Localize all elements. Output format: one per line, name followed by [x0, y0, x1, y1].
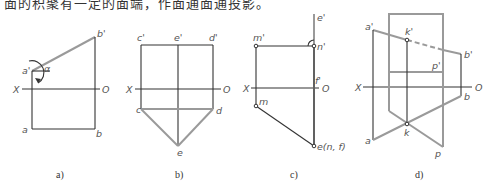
line-a-b — [373, 96, 461, 140]
point-e — [312, 144, 316, 148]
label-p: p — [434, 148, 441, 159]
point-n-prime — [312, 44, 316, 48]
label-d-prime: d' — [209, 32, 218, 43]
label-e-prime: e' — [174, 32, 182, 43]
panel-b: c' e' d' X O c d e b) — [125, 32, 231, 181]
label-o: O — [223, 84, 231, 95]
label-b: b — [96, 128, 102, 139]
label-e: e — [177, 147, 183, 158]
label-c-prime: c' — [137, 32, 145, 43]
label-o: O — [475, 82, 483, 93]
label-e-nf: e(n, f) — [317, 141, 346, 152]
label-a: a — [22, 124, 28, 135]
caption-b: b) — [175, 169, 183, 181]
label-c: c — [136, 104, 142, 115]
label-p-prime: p' — [431, 60, 441, 71]
label-m-prime: m' — [253, 32, 265, 43]
panel-c: e' m' n' f' X O m e(n, f) c) — [242, 12, 346, 181]
point-k — [405, 122, 409, 126]
projection-diagrams: b' a' α X O a b a) c' e' d' X O c d e b) — [0, 0, 492, 194]
label-b-prime: b' — [97, 28, 106, 39]
point-m — [254, 104, 258, 108]
label-o: O — [102, 84, 110, 95]
label-d: d — [216, 105, 223, 116]
label-m: m — [259, 96, 268, 107]
label-b-prime: b' — [464, 49, 473, 60]
label-e-prime: e' — [317, 12, 325, 23]
label-alpha: α — [44, 63, 51, 74]
caption-d: d) — [415, 169, 423, 181]
label-a: a — [365, 135, 371, 146]
line-c-e — [141, 109, 178, 146]
label-b: b — [464, 91, 470, 102]
line-d-e — [178, 109, 213, 146]
label-k-prime: k' — [405, 26, 413, 37]
line-m-e — [256, 106, 314, 146]
label-x: X — [242, 83, 250, 94]
label-n-prime: n' — [317, 41, 326, 52]
point-m-prime — [254, 44, 258, 48]
label-x: X — [125, 84, 133, 95]
label-a-prime: a' — [365, 21, 373, 32]
point-k-prime — [405, 38, 409, 42]
panel-a: b' a' α X O a b a) — [12, 28, 110, 181]
label-x: X — [354, 82, 362, 93]
label-a-prime: a' — [22, 65, 30, 76]
caption-a: a) — [56, 169, 64, 181]
panel-d: a' k' b' p' X O b k a p d) — [354, 14, 483, 181]
label-k: k — [404, 127, 410, 138]
caption-c: c) — [290, 169, 298, 181]
label-x: X — [12, 84, 20, 95]
line-to-b-prime — [443, 50, 461, 54]
arrowhead-icon — [35, 78, 41, 83]
hidden-line-k-prime — [407, 40, 443, 50]
label-f-prime: f' — [315, 75, 321, 86]
label-o: O — [322, 83, 330, 94]
